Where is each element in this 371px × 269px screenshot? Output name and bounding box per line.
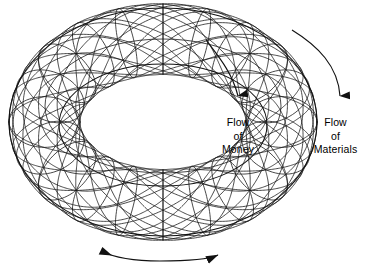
torus-curve [17, 70, 85, 123]
flow-materials-label: Flow of Materials [300, 116, 371, 157]
rotation-arc-left [101, 251, 160, 261]
torus-curve [242, 70, 310, 123]
flow-materials-line-3: Materials [300, 143, 371, 157]
flow-materials-line-1: Flow [300, 116, 371, 130]
flow-materials-line-2: of [300, 130, 371, 144]
rotation-arrow-group [101, 251, 218, 261]
torus-curve [17, 121, 85, 174]
torus-flow-diagram: Flow of Money Flow of Materials [0, 0, 371, 269]
flow-money-line-1: Flow [205, 116, 271, 130]
flow-money-label: Flow of Money [205, 116, 271, 157]
flow-materials-arrow [292, 30, 340, 96]
flow-money-line-3: Money [205, 143, 271, 157]
rotation-arc-right [160, 255, 218, 261]
flow-money-line-2: of [205, 130, 271, 144]
